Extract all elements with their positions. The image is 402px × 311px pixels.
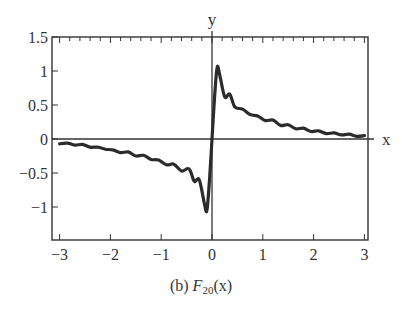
- chart-caption: (b) F20(x): [0, 277, 402, 296]
- x-tick-label: −2: [102, 246, 119, 263]
- y-tick-label: 0: [40, 131, 48, 148]
- caption-arg: (x): [213, 277, 232, 294]
- x-tick-label: 3: [360, 246, 368, 263]
- y-tick-label: −0.5: [19, 165, 48, 182]
- chart: −3−2−101231.510.50−0.5−1xy: [0, 0, 402, 311]
- x-tick-label: −3: [51, 246, 68, 263]
- y-tick-label: 1: [40, 63, 48, 80]
- y-axis-label: y: [208, 10, 217, 29]
- y-tick-label: 1.5: [28, 29, 48, 46]
- x-axis-label: x: [382, 130, 391, 149]
- x-tick-label: 2: [310, 246, 318, 263]
- y-tick-label: −1: [31, 199, 48, 216]
- caption-prefix: (b): [170, 277, 189, 294]
- caption-sub: 20: [202, 284, 213, 296]
- caption-func: F: [193, 277, 203, 294]
- x-tick-label: 1: [259, 246, 267, 263]
- x-tick-label: −1: [153, 246, 170, 263]
- y-tick-label: 0.5: [28, 97, 48, 114]
- x-tick-label: 0: [208, 246, 216, 263]
